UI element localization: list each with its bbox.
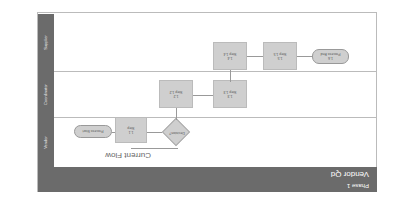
step-1-3: 1.3Step 1.3 <box>213 80 247 108</box>
step-1-5: 1.5Step 1.5 <box>263 42 297 70</box>
diagram-subtitle: Phase 1 <box>347 183 369 189</box>
title-bar: Phase 1 Vendor Qd <box>38 167 377 192</box>
swimlane-diagram: Phase 1 Vendor Qd Vendor Coordinator Sup… <box>0 0 399 204</box>
diagram-title: Vendor Qd <box>331 170 369 179</box>
step-1-2: 1.2Step 1.2 <box>159 80 193 108</box>
lane-label-1: Vendor <box>38 118 54 167</box>
step-1-1: 1.1Step <box>115 117 147 143</box>
caption: Current Flow <box>105 151 151 160</box>
arrow <box>230 70 231 82</box>
end-node: 1.6Process End <box>312 49 349 64</box>
lane-divider <box>54 71 377 72</box>
decision-label: Decision? <box>162 131 192 135</box>
lane-divider <box>54 117 377 118</box>
lane-label-3: Supplier <box>38 14 54 72</box>
arrow <box>147 132 162 133</box>
arrow <box>193 95 215 96</box>
diagram-frame <box>37 12 377 192</box>
arrow <box>176 108 177 120</box>
step-1-4: 1.4Step 1.4 <box>213 42 247 70</box>
start-node: Process Start <box>74 125 112 138</box>
lane-label-2: Coordinator <box>38 72 54 118</box>
loop-arrow <box>131 148 178 149</box>
